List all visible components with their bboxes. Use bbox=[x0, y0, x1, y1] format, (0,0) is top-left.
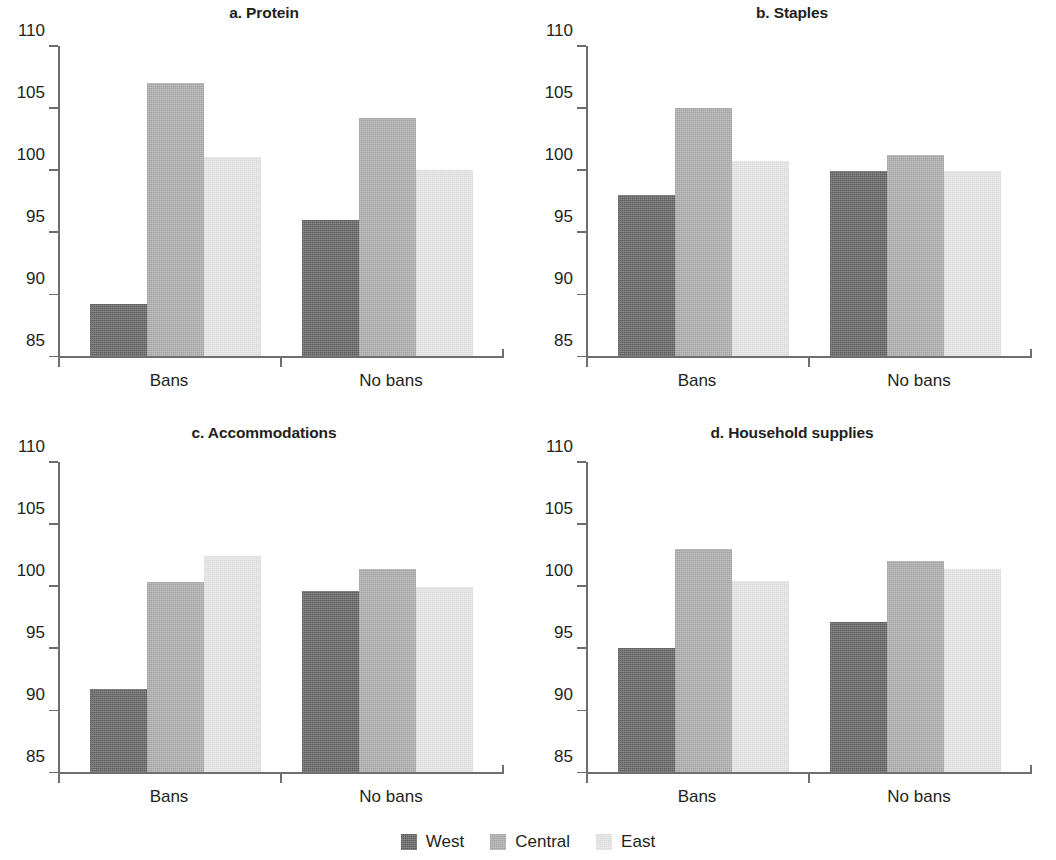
panel-grid: a. Protein 859095100105110BansNo bans b.… bbox=[0, 0, 1056, 820]
legend-label-central: Central bbox=[515, 832, 570, 852]
x-axis-end-tick bbox=[1030, 765, 1032, 774]
panel-a-protein: a. Protein 859095100105110BansNo bans bbox=[0, 0, 528, 420]
y-axis-tick bbox=[577, 647, 586, 649]
y-axis-tick bbox=[49, 585, 58, 587]
y-axis-tick bbox=[49, 294, 58, 296]
y-axis-line bbox=[58, 46, 60, 358]
x-axis-category-label: No bans bbox=[887, 787, 950, 807]
y-axis-line bbox=[586, 46, 588, 358]
y-axis-tick bbox=[49, 107, 58, 109]
x-axis-group-separator-tick bbox=[280, 774, 282, 783]
y-axis-tick bbox=[49, 523, 58, 525]
panel-d-plot-area: 859095100105110BansNo bans bbox=[586, 462, 1030, 774]
bar-east bbox=[416, 170, 473, 356]
bar-central bbox=[887, 155, 944, 356]
bar-central bbox=[147, 582, 204, 772]
legend-swatch-central bbox=[490, 834, 506, 850]
y-axis-tick-label: 85 bbox=[26, 748, 45, 765]
y-axis-tick-label: 110 bbox=[546, 437, 573, 454]
x-axis-group-separator-tick bbox=[808, 774, 810, 783]
y-axis-tick-label: 105 bbox=[545, 83, 573, 100]
panel-a-plot-area: 859095100105110BansNo bans bbox=[58, 46, 502, 358]
y-axis-tick bbox=[577, 45, 586, 47]
panel-d-title: d. Household supplies bbox=[528, 424, 1056, 442]
y-axis-line bbox=[586, 462, 588, 774]
y-axis-tick bbox=[577, 169, 586, 171]
bar-west bbox=[90, 304, 147, 356]
x-axis-category-label: No bans bbox=[887, 371, 950, 391]
y-axis-tick bbox=[49, 647, 58, 649]
panel-c-accommodations: c. Accommodations 859095100105110BansNo … bbox=[0, 420, 528, 820]
y-axis-tick-label: 85 bbox=[554, 332, 573, 349]
bar-west bbox=[618, 195, 675, 356]
y-axis-tick-label: 105 bbox=[17, 83, 45, 100]
x-axis-end-tick bbox=[502, 765, 504, 774]
bar-west bbox=[830, 622, 887, 772]
x-axis-end-tick bbox=[502, 349, 504, 358]
panel-c-plot-area: 859095100105110BansNo bans bbox=[58, 462, 502, 774]
legend-swatch-east bbox=[596, 834, 612, 850]
y-axis-tick bbox=[577, 523, 586, 525]
legend-swatch-west bbox=[401, 834, 417, 850]
x-axis-group-separator-tick bbox=[808, 358, 810, 367]
panel-c-title: c. Accommodations bbox=[0, 424, 528, 442]
panel-b-plot-area: 859095100105110BansNo bans bbox=[586, 46, 1030, 358]
bar-west bbox=[618, 648, 675, 772]
y-axis-tick bbox=[577, 107, 586, 109]
x-axis-category-label: Bans bbox=[150, 371, 189, 391]
bar-east bbox=[944, 171, 1001, 356]
chart-legend: WestCentralEast bbox=[0, 832, 1056, 852]
y-axis-tick-label: 90 bbox=[554, 270, 573, 287]
bar-east bbox=[732, 581, 789, 772]
bar-east bbox=[204, 157, 261, 357]
y-axis-tick-label: 85 bbox=[554, 748, 573, 765]
y-axis-tick bbox=[577, 356, 586, 358]
y-axis-tick bbox=[49, 169, 58, 171]
y-axis-tick bbox=[577, 585, 586, 587]
y-axis-tick bbox=[577, 461, 586, 463]
y-axis-tick-label: 100 bbox=[17, 145, 45, 162]
y-axis-tick-label: 105 bbox=[545, 499, 573, 516]
y-axis-tick bbox=[49, 45, 58, 47]
x-axis-category-label: Bans bbox=[678, 371, 717, 391]
y-axis-tick-label: 90 bbox=[26, 270, 45, 287]
panel-b-title: b. Staples bbox=[528, 4, 1056, 22]
x-axis-group-separator-tick bbox=[280, 358, 282, 367]
y-axis-tick-label: 110 bbox=[18, 437, 45, 454]
y-axis-tick bbox=[577, 710, 586, 712]
bar-central bbox=[359, 118, 416, 356]
y-axis-tick-label: 95 bbox=[26, 208, 45, 225]
y-axis-tick bbox=[49, 231, 58, 233]
y-axis-tick-label: 95 bbox=[26, 624, 45, 641]
panel-a-title: a. Protein bbox=[0, 4, 528, 22]
x-axis-end-tick bbox=[1030, 349, 1032, 358]
bar-central bbox=[675, 108, 732, 356]
x-axis-category-label: Bans bbox=[678, 787, 717, 807]
x-axis-start-tick bbox=[586, 774, 588, 783]
y-axis-tick-label: 110 bbox=[546, 21, 573, 38]
bar-central bbox=[675, 549, 732, 772]
x-axis-category-label: Bans bbox=[150, 787, 189, 807]
legend-label-west: West bbox=[426, 832, 464, 852]
y-axis-tick-label: 100 bbox=[545, 145, 573, 162]
x-axis-start-tick bbox=[58, 774, 60, 783]
bar-west bbox=[90, 689, 147, 772]
y-axis-tick bbox=[577, 294, 586, 296]
panel-d-household-supplies: d. Household supplies 859095100105110Ban… bbox=[528, 420, 1056, 820]
y-axis-tick bbox=[49, 772, 58, 774]
legend-item-west: West bbox=[401, 832, 464, 852]
y-axis-tick-label: 95 bbox=[554, 624, 573, 641]
y-axis-tick-label: 100 bbox=[17, 561, 45, 578]
bar-east bbox=[204, 556, 261, 772]
bar-west bbox=[302, 591, 359, 772]
y-axis-tick bbox=[577, 772, 586, 774]
bar-west bbox=[302, 220, 359, 357]
y-axis-tick-label: 105 bbox=[17, 499, 45, 516]
x-axis-category-label: No bans bbox=[359, 371, 422, 391]
legend-item-central: Central bbox=[490, 832, 570, 852]
bar-east bbox=[416, 587, 473, 772]
legend-label-east: East bbox=[621, 832, 655, 852]
bar-central bbox=[359, 569, 416, 773]
panel-b-staples: b. Staples 859095100105110BansNo bans bbox=[528, 0, 1056, 420]
y-axis-tick bbox=[49, 356, 58, 358]
